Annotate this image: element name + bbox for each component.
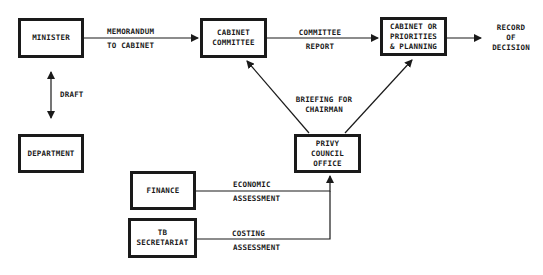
node-privy-council-line2: COUNCIL	[311, 149, 344, 159]
node-cabinet-priorities-line1: CABINET OR	[390, 22, 437, 32]
node-cabinet-priorities-planning: CABINET OR PRIORITIES & PLANNING	[380, 17, 447, 56]
terminal-line3: DECISION	[486, 43, 536, 53]
node-cabinet-priorities-line2: PRIORITIES	[390, 32, 437, 42]
edge-label-economic: ECONOMIC ASSESSMENT	[233, 180, 280, 204]
terminal-line1: RECORD	[486, 23, 536, 33]
node-minister: MINISTER	[18, 18, 84, 58]
terminal-record-of-decision: RECORD OF DECISION	[486, 23, 536, 53]
node-cabinet-committee-line2: COMMITTEE	[212, 38, 254, 48]
node-privy-council-line1: PRIVY	[316, 139, 340, 149]
edge-label-costing-line2: ASSESSMENT	[232, 243, 280, 253]
edge-label-memorandum: MEMORANDUM TO CABINET	[107, 27, 154, 51]
process-diagram: MINISTER CABINET COMMITTEE CABINET OR PR…	[0, 0, 543, 275]
edge-label-costing: COSTING ASSESSMENT	[232, 229, 280, 253]
edge-label-economic-line2: ASSESSMENT	[233, 194, 280, 204]
edge-label-economic-line1: ECONOMIC	[233, 180, 280, 194]
edge-label-briefing-line1: BRIEFING FOR	[294, 95, 354, 105]
edge-label-committee-report: COMMITTEE REPORT	[290, 28, 350, 52]
edge-label-briefing-line2: CHAIRMAN	[294, 105, 354, 115]
node-privy-council-line3: OFFICE	[313, 159, 341, 169]
arrow-pco-priorities	[345, 60, 412, 133]
edge-label-committee-line2: REPORT	[290, 42, 350, 52]
edge-label-briefing: BRIEFING FOR CHAIRMAN	[294, 95, 354, 115]
node-cabinet-committee: CABINET COMMITTEE	[200, 18, 267, 58]
edge-label-draft: DRAFT	[60, 90, 84, 100]
node-finance: FINANCE	[130, 171, 196, 210]
edge-label-committee-line1: COMMITTEE	[290, 28, 350, 42]
edge-label-costing-line1: COSTING	[232, 229, 280, 243]
edge-label-draft-line1: DRAFT	[60, 90, 84, 100]
node-cabinet-committee-line1: CABINET	[217, 28, 250, 38]
node-department: DEPARTMENT	[18, 134, 84, 173]
node-cabinet-priorities-line3: & PLANNING	[390, 42, 437, 52]
node-minister-label: MINISTER	[32, 33, 70, 43]
terminal-line2: OF	[486, 33, 536, 43]
edge-label-memorandum-line1: MEMORANDUM	[107, 27, 154, 41]
edge-label-memorandum-line2: TO CABINET	[107, 41, 154, 51]
node-tb-secretariat-line1: TB	[158, 228, 167, 238]
node-finance-label: FINANCE	[146, 186, 179, 196]
node-department-label: DEPARTMENT	[27, 149, 74, 159]
node-tb-secretariat: TB SECRETARIAT	[128, 218, 197, 258]
node-privy-council-office: PRIVY COUNCIL OFFICE	[294, 134, 361, 173]
node-tb-secretariat-line2: SECRETARIAT	[137, 238, 189, 248]
